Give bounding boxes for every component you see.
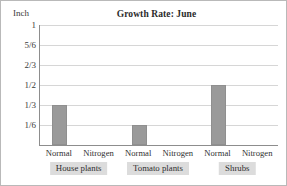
plot-area: 15/62/31/21/31/6	[39, 25, 278, 146]
gridline	[40, 125, 278, 126]
chart-title: Growth Rate: June	[1, 9, 286, 19]
x-axis-tick-label: Nitrogen	[83, 148, 114, 158]
y-axis-tick-label: 1/3	[24, 100, 36, 110]
bar	[132, 125, 147, 145]
y-axis-tick-label: 1/6	[24, 120, 36, 130]
x-axis-tick-labels: NormalNitrogenNormalNitrogenNormalNitrog…	[39, 148, 278, 161]
group-label: Shrubs	[219, 162, 255, 175]
gridline	[40, 85, 278, 86]
chart-figure: Inch Growth Rate: June 15/62/31/21/31/6 …	[0, 0, 287, 186]
gridline	[40, 65, 278, 66]
group-label: House plants	[50, 162, 108, 175]
group-label: Tomato plants	[127, 162, 189, 175]
gridline	[40, 45, 278, 46]
y-axis-tick-label: 2/3	[24, 60, 36, 70]
y-axis-tick-label: 5/6	[24, 40, 36, 50]
x-axis-tick-label: Nitrogen	[242, 148, 273, 158]
x-axis-tick-label: Normal	[204, 148, 230, 158]
gridline	[40, 25, 278, 26]
y-axis-tick-label: 1/2	[24, 80, 36, 90]
bar	[52, 105, 67, 145]
gridline	[40, 105, 278, 106]
x-axis-tick-label: Nitrogen	[163, 148, 194, 158]
x-axis-tick-label: Normal	[125, 148, 151, 158]
x-axis-group-labels: House plantsTomato plantsShrubs	[39, 162, 278, 178]
bar	[211, 85, 226, 145]
x-axis-tick-label: Normal	[46, 148, 72, 158]
y-axis-tick-label: 1	[32, 20, 37, 30]
